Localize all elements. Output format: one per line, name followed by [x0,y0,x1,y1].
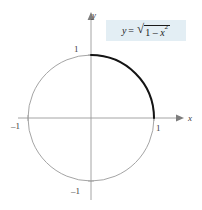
radicand-lead: 1 – [145,28,160,39]
equation-text: y = √ 1 – x2 [122,23,170,37]
equation-annotation-box: y = √ 1 – x2 [106,20,186,41]
square-root-group: √ 1 – x2 [137,23,170,37]
radicand: 1 – x2 [144,25,170,38]
equation-equals-sign: = [126,25,136,36]
radicand-exponent: 2 [165,23,169,31]
tick-label-y-positive: 1 [74,45,79,54]
x-axis-label: x [188,114,192,123]
tick-label-x-positive: 1 [156,124,161,133]
y-axis-label: y [92,11,96,20]
tick-label-x-negative: –1 [11,122,20,131]
radicand-variable: x [160,28,164,39]
radical-sign-icon: √ [137,22,144,36]
tick-label-y-negative: –1 [71,187,80,196]
x-axis-arrowhead [176,115,184,122]
highlighted-arc-curve [91,55,154,118]
figure-container: y x 1 –1 1 –1 y = √ 1 – x2 [0,0,202,210]
